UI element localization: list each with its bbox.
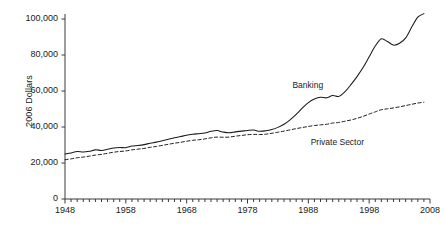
axis-lines: [65, 14, 430, 199]
series-line-banking: [65, 14, 424, 154]
